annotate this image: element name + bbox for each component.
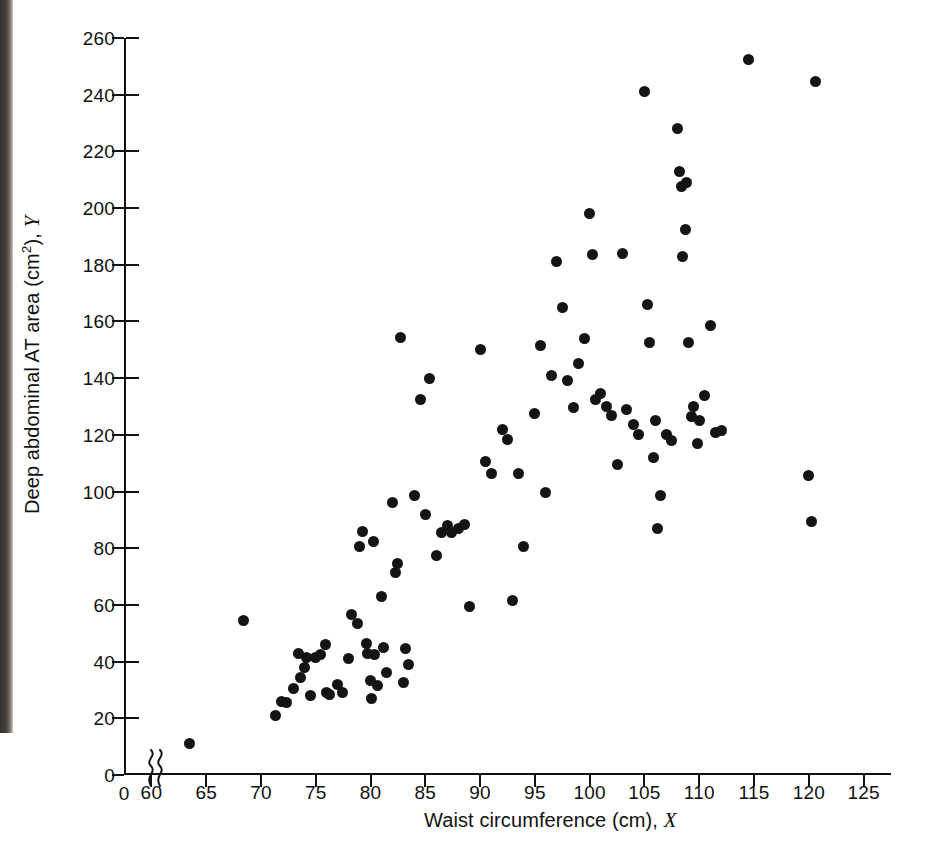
data-point	[803, 470, 814, 481]
y-axis-title-superscript: 2	[19, 245, 34, 253]
data-point	[497, 424, 508, 435]
data-point	[357, 526, 368, 537]
x-axis-tick-label: 105	[628, 783, 660, 802]
data-point	[672, 123, 683, 134]
data-point	[680, 224, 691, 235]
y-axis-tick-label: 260	[83, 29, 115, 48]
y-axis-title: Deep abdominal AT area (cm2), Y	[19, 155, 45, 575]
data-point	[642, 299, 653, 310]
y-axis-tick-mark-inner	[126, 661, 139, 663]
y-axis-tick-label: 0	[104, 766, 115, 785]
y-axis-tick-mark-inner	[126, 94, 139, 96]
y-axis-tick-label: 200	[83, 199, 115, 218]
data-point	[705, 320, 716, 331]
data-point	[486, 468, 497, 479]
data-point	[694, 415, 705, 426]
data-point	[681, 177, 692, 188]
data-point	[381, 667, 392, 678]
y-axis-tick-label: 60	[93, 595, 115, 614]
data-point	[621, 404, 632, 415]
data-point	[507, 595, 518, 606]
data-point	[459, 519, 470, 530]
y-axis-tick-label: 20	[93, 709, 115, 728]
data-point	[464, 601, 475, 612]
x-axis-tick-label: 110	[684, 783, 715, 802]
data-point	[666, 435, 677, 446]
plot-area: 020406080100120140160180200220240260 606…	[124, 38, 891, 775]
y-axis-tick-mark-inner	[126, 320, 139, 322]
data-point	[540, 487, 551, 498]
y-axis-tick-label: 40	[93, 652, 115, 671]
data-point	[420, 509, 431, 520]
y-axis-tick-mark-inner	[126, 150, 139, 152]
data-point	[513, 468, 524, 479]
data-point	[378, 642, 389, 653]
data-point	[650, 415, 661, 426]
y-axis-tick-mark-inner	[126, 547, 139, 549]
y-axis-tick-mark-inner	[126, 434, 139, 436]
data-point	[573, 358, 584, 369]
y-axis-tick-label: 240	[83, 85, 115, 104]
data-point	[354, 541, 365, 552]
data-point	[238, 615, 249, 626]
data-point	[288, 683, 299, 694]
data-point	[557, 302, 568, 313]
data-point	[295, 672, 306, 683]
data-point	[352, 618, 363, 629]
y-axis-tick-label: 80	[93, 539, 115, 558]
data-point	[716, 425, 727, 436]
x-axis-tick-label: 65	[195, 783, 217, 802]
y-axis-tick-label: 100	[83, 482, 115, 501]
data-point	[320, 639, 331, 650]
y-axis-tick-label: 180	[83, 255, 115, 274]
data-point	[270, 710, 281, 721]
data-point	[652, 523, 663, 534]
x-axis-tick-label: 120	[793, 783, 825, 802]
data-point	[562, 375, 573, 386]
data-point	[400, 643, 411, 654]
x-axis-tick-label: 95	[524, 783, 546, 802]
y-axis-tick-label: 120	[83, 425, 115, 444]
data-point	[551, 256, 562, 267]
y-axis-tick-mark-inner	[126, 604, 139, 606]
data-point	[674, 166, 685, 177]
y-axis-tick-label: 160	[83, 312, 115, 331]
scatter-plot-figure: 020406080100120140160180200220240260 606…	[0, 0, 936, 851]
y-axis-tick-mark-inner	[126, 207, 139, 209]
data-point	[568, 402, 579, 413]
data-point	[688, 401, 699, 412]
data-point	[617, 248, 628, 259]
data-point	[387, 497, 398, 508]
data-point	[480, 456, 491, 467]
y-axis-tick-mark-inner	[126, 37, 139, 39]
y-axis-variable: Y	[20, 216, 44, 228]
y-axis-tick-mark-inner	[126, 264, 139, 266]
data-point	[343, 653, 354, 664]
data-point	[699, 390, 710, 401]
data-point	[677, 251, 688, 262]
data-point	[372, 680, 383, 691]
data-point	[692, 438, 703, 449]
data-point	[337, 687, 348, 698]
x-axis-tick-label: 85	[415, 783, 437, 802]
data-point	[184, 738, 195, 749]
y-axis-tick-mark-inner	[126, 491, 139, 493]
data-point	[305, 690, 316, 701]
y-axis-spine	[124, 38, 126, 775]
data-point	[810, 76, 821, 87]
y-axis-title-tail: ),	[21, 227, 43, 245]
data-point	[368, 536, 379, 547]
x-axis-tick-label: 100	[574, 783, 606, 802]
x-axis-title: Waist circumference (cm), X	[424, 808, 677, 833]
data-point	[403, 659, 414, 670]
data-point	[502, 434, 513, 445]
data-point	[409, 490, 420, 501]
data-point	[535, 340, 546, 351]
data-point	[518, 541, 529, 552]
data-point	[281, 697, 292, 708]
data-point	[324, 689, 335, 700]
x-axis-title-text: Waist circumference (cm),	[424, 809, 664, 831]
data-point	[806, 516, 817, 527]
data-point	[655, 490, 666, 501]
y-axis-tick-label: 220	[83, 142, 115, 161]
